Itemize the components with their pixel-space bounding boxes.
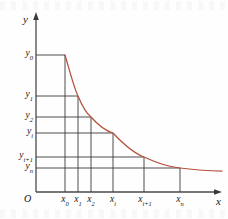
y-tick-label-y2: y2: [0, 111, 33, 121]
plot-svg: [0, 0, 228, 219]
y-tick-label-yn: yn: [0, 162, 33, 172]
origin-label: O: [24, 194, 31, 204]
y-axis: [33, 12, 39, 192]
horizontal-level-lines: [36, 55, 180, 168]
x-tick-label-x2: x2: [81, 195, 101, 205]
x-tick-label-xn: xn: [170, 195, 190, 205]
x-tick-label-xi: xi: [103, 195, 123, 205]
y-tick-label-y1: y1: [0, 90, 33, 100]
y-tick-label-yi1: yi+1: [0, 151, 33, 161]
y-axis-label: y: [23, 14, 28, 25]
function-curve: [65, 55, 222, 171]
figure-container: y x O y0 y1 y2 yi yi+1 yn x0 x1 x2 xi xi…: [0, 0, 228, 219]
vertical-partition-lines: [65, 55, 180, 192]
x-tick-label-xi1: xi+1: [132, 195, 158, 205]
y-tick-label-y0: y0: [0, 49, 33, 59]
x-axis-label: x: [216, 196, 221, 207]
y-tick-label-yi: yi: [0, 127, 33, 137]
